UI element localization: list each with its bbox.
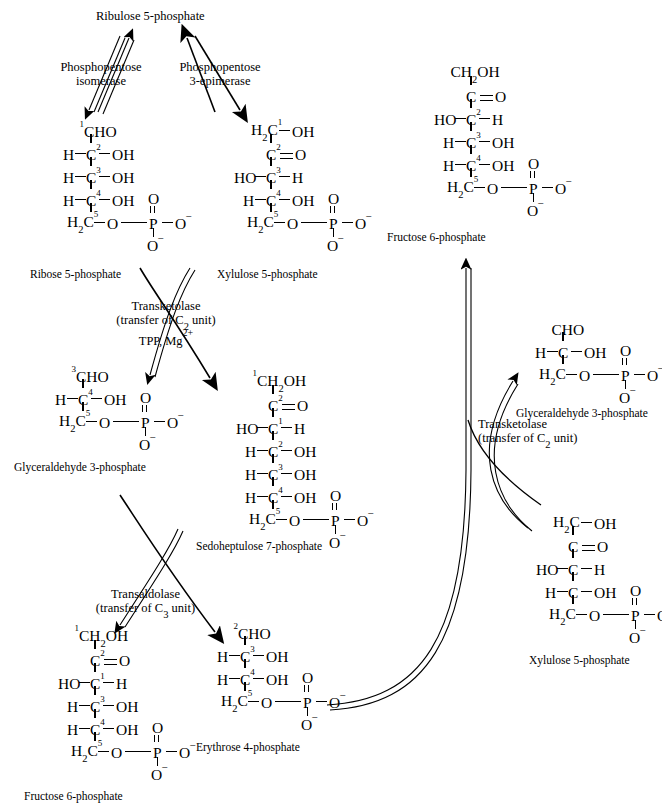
bond-vertical xyxy=(90,134,91,143)
bond-vertical xyxy=(82,379,83,388)
bond-vertical xyxy=(562,332,563,341)
bond-vertical xyxy=(572,549,573,558)
enzyme-line-2: (transfer of C3 unit) xyxy=(78,601,213,619)
molecule-label-erythrose-4-phosphate: Erythrose 4-phosphate xyxy=(196,741,300,753)
molecule-label-glyceraldehyde-3-phosphate-left: Glyceraldehyde 3-phosphate xyxy=(14,461,146,473)
molecule-label-fructose-6-phosphate-top: Fructose 6-phosphate xyxy=(387,231,486,243)
molecule-label-xylulose-5-phosphate-top: Xylulose 5-phosphate xyxy=(217,268,318,280)
molecule-row: H2C5OPO–OO– xyxy=(170,691,320,714)
bond-vertical xyxy=(272,385,273,394)
enzyme-line-2: 3-epimerase xyxy=(155,74,285,88)
molecule-row: H2COPO–OO– xyxy=(498,604,648,627)
enzyme-line-1: Transketolase xyxy=(478,417,618,431)
enzyme-phosphopentose-isomerase: Phosphopentose isomerase xyxy=(36,60,166,89)
bond-vertical xyxy=(572,572,573,581)
bond-vertical xyxy=(270,134,271,143)
bond-vertical xyxy=(270,203,271,212)
bond-vertical xyxy=(90,180,91,189)
molecule-glyceraldehyde-3-phosphate-right: CHOHCOHH2COPO–OO– xyxy=(488,318,638,421)
bond-vertical xyxy=(270,180,271,189)
molecule-glyceraldehyde-3-phosphate-left: 3CHOHC4OHH2C5OPO–OO– xyxy=(8,365,158,468)
bond-vertical xyxy=(244,659,245,668)
bond-vertical xyxy=(470,145,471,154)
bond-vertical xyxy=(90,157,91,166)
molecule-fructose-6-phosphate-top: CH2OHCOHOC2HHC3OHHC4OHH2C5OPO–OO– xyxy=(396,62,546,234)
molecule-row: H2C5OPO–OO– xyxy=(8,411,158,434)
bond-vertical xyxy=(572,526,573,535)
bond-vertical xyxy=(94,732,95,741)
molecule-row: H2COPO–OO– xyxy=(488,364,638,387)
bond-vertical xyxy=(470,76,471,85)
bond-vertical xyxy=(272,408,273,417)
bond-vertical xyxy=(94,686,95,695)
molecule-label-ribose-5-phosphate: Ribose 5-phosphate xyxy=(30,268,121,280)
bond-vertical xyxy=(470,122,471,131)
bond-vertical xyxy=(572,595,573,604)
enzyme-line-1: Transaldolase xyxy=(78,587,213,601)
molecule-erythrose-4-phosphate: 2CHOHC3OHHC4OHH2C5OPO–OO– xyxy=(170,622,320,748)
molecule-xylulose-5-phosphate-top: H2C1OHC2OHOC3HHC4OHH2C5OPO–OO– xyxy=(196,120,346,269)
molecule-label-ribulose-5-phosphate: Ribulose 5-phosphate xyxy=(96,9,205,24)
bond-vertical xyxy=(94,709,95,718)
bond-vertical xyxy=(562,355,563,364)
enzyme-line-1: Phosphopentose xyxy=(155,60,285,74)
bond-vertical xyxy=(272,500,273,509)
bond-vertical xyxy=(94,640,95,649)
enzyme-phosphopentose-3-epimerase: Phosphopentose 3-epimerase xyxy=(155,60,285,89)
enzyme-line-1: Transketolase xyxy=(100,299,232,313)
enzyme-transketolase-middle: Transketolase (transfer of C2 unit) TPP,… xyxy=(100,299,232,348)
bond-vertical xyxy=(90,203,91,212)
molecule-label-xylulose-5-phosphate-right: Xylulose 5-phosphate xyxy=(529,654,630,666)
enzyme-line-2: isomerase xyxy=(36,74,166,88)
bond-vertical xyxy=(244,682,245,691)
enzyme-transaldolase: Transaldolase (transfer of C3 unit) xyxy=(78,587,213,619)
arrow-erythrose-to-fructose6p xyxy=(327,268,471,710)
enzyme-line-1: Phosphopentose xyxy=(36,60,166,74)
bond-vertical xyxy=(272,454,273,463)
enzyme-transketolase-right: Transketolase (transfer of C2 unit) xyxy=(478,417,618,449)
molecule-fructose-6-phosphate-bottom: 1CH2OHC2OHOC1HHC3OHHC4OHH2C5OPO–OO– xyxy=(20,626,170,798)
molecule-ribose-5-phosphate: 1CHOHC2OHHC3OHHC4OHH2C5OPO–OO– xyxy=(16,120,166,269)
bond-vertical xyxy=(244,636,245,645)
molecule-row: H2C5OPO–OO– xyxy=(16,212,166,235)
bond-vertical xyxy=(470,99,471,108)
bond-vertical xyxy=(272,477,273,486)
molecule-label-sedoheptulose-7-phosphate: Sedoheptulose 7-phosphate xyxy=(196,540,322,552)
pathway-diagram: Ribulose 5-phosphate 1CHOHC2OHHC3OHHC4OH… xyxy=(0,0,662,810)
enzyme-line-3: TPP, Mg2+ xyxy=(100,331,232,349)
molecule-row: H2C5OPO–OO– xyxy=(198,509,348,532)
bond-vertical xyxy=(270,157,271,166)
molecule-sedoheptulose-7-phosphate: 1CH2OHC2OHOC1HHC2OHHC3OHHC4OHH2C5OPO–OO– xyxy=(198,371,348,566)
bond-vertical xyxy=(272,431,273,440)
molecule-xylulose-5-phosphate-right: H2COHCOHOCHHCOHH2COPO–OO– xyxy=(498,512,648,661)
molecule-row: H2C5OPO–OO– xyxy=(396,177,546,200)
enzyme-line-2: (transfer of C2 unit) xyxy=(100,313,232,331)
bond-vertical xyxy=(94,663,95,672)
molecule-row: H2C5OPO–OO– xyxy=(20,741,170,764)
molecule-row: H2C5OPO–OO– xyxy=(196,212,346,235)
bond-vertical xyxy=(470,168,471,177)
bond-vertical xyxy=(82,402,83,411)
enzyme-line-2: (transfer of C2 unit) xyxy=(478,431,618,449)
molecule-label-fructose-6-phosphate-bottom: Fructose 6-phosphate xyxy=(24,790,123,802)
